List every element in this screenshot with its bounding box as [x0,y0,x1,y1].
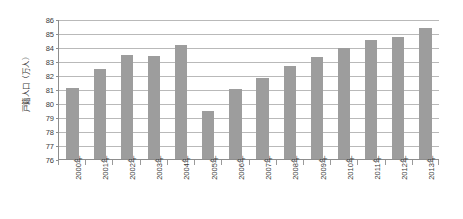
bar-slot [330,20,357,159]
y-tick-label: 78 [46,128,54,137]
bar[interactable] [338,48,350,159]
x-label-slot: 2007年 [249,166,276,216]
bar-slot [222,20,249,159]
x-label-slot: 2013年 [412,166,439,216]
y-tick-label: 80 [46,100,54,109]
bar[interactable] [284,66,296,159]
x-tick-label: 2013年 [425,156,436,180]
bar-slot [276,20,303,159]
bar[interactable] [392,37,404,160]
bar[interactable] [175,45,187,159]
bar[interactable] [121,55,133,159]
x-tick-label: 2002年 [126,156,137,180]
bar[interactable] [148,56,160,159]
y-tick-label: 82 [46,72,54,81]
y-tick-label: 76 [46,156,54,165]
bar-slot [303,20,330,159]
bar-slot [195,20,222,159]
y-tick-label: 83 [46,58,54,67]
x-tick-label: 2010年 [344,156,355,180]
x-label-slot: 2006年 [221,166,248,216]
bar[interactable] [419,28,431,159]
x-tick-label: 2001年 [99,156,110,180]
bar[interactable] [256,78,268,159]
x-label-slot: 2009年 [303,166,330,216]
x-tick-label: 2000年 [72,156,83,180]
x-label-slot: 2003年 [140,166,167,216]
x-tick-label: 2006年 [235,156,246,180]
y-axis-tick-labels: 8685848382818079787776 [34,20,54,160]
bar-slot [358,20,385,159]
bar-slot [59,20,86,159]
x-tick-label: 2004年 [180,156,191,180]
x-tick-label: 2008年 [289,156,300,180]
x-label-slot: 2005年 [194,166,221,216]
bar-slot [168,20,195,159]
bar-slot [113,20,140,159]
x-label-slot: 2010年 [330,166,357,216]
bar[interactable] [229,89,241,159]
y-tick-label: 85 [46,30,54,39]
bar[interactable] [66,88,78,159]
y-axis-title: 戸籍人口（万人） [17,0,35,165]
bar-slot [412,20,439,159]
x-tick-label: 2012年 [398,156,409,180]
bar-slot [385,20,412,159]
bar[interactable] [94,69,106,159]
bar[interactable] [202,111,214,159]
y-tick-label: 77 [46,142,54,151]
x-label-slot: 2008年 [276,166,303,216]
bar-slot [86,20,113,159]
x-tick-label: 2011年 [371,156,382,179]
bars-container [59,20,439,159]
bar-chart: 戸籍人口（万人） 8685848382818079787776 2000年200… [0,0,463,219]
plot-area [58,20,439,160]
x-label-slot: 2002年 [112,166,139,216]
bar-slot [140,20,167,159]
y-tick-label: 84 [46,44,54,53]
x-tick-label: 2007年 [262,156,273,180]
x-tick-label: 2003年 [153,156,164,180]
x-label-slot: 2011年 [357,166,384,216]
y-tick-label: 86 [46,16,54,25]
x-label-slot: 2004年 [167,166,194,216]
y-axis-title-text: 戸籍人口（万人） [21,53,32,112]
x-axis-tick-labels: 2000年2001年2002年2003年2004年2005年2006年2007年… [58,166,439,216]
x-tick-label: 2005年 [208,156,219,180]
y-tick-label: 81 [46,86,54,95]
x-tick-label: 2009年 [317,156,328,180]
bar[interactable] [311,57,323,159]
x-label-slot: 2001年 [85,166,112,216]
x-label-slot: 2012年 [385,166,412,216]
bar[interactable] [365,40,377,159]
y-tick-label: 79 [46,114,54,123]
x-label-slot: 2000年 [58,166,85,216]
bar-slot [249,20,276,159]
